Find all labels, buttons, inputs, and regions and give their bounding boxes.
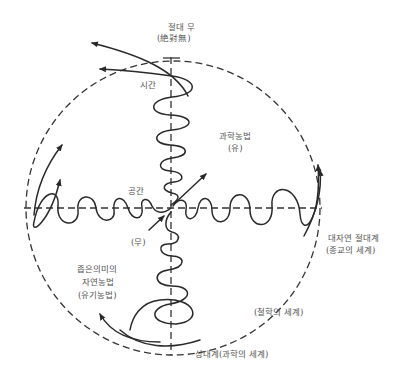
label-nothing: (무) bbox=[131, 237, 146, 248]
spiral-right bbox=[173, 165, 319, 225]
spiral-diagram bbox=[0, 0, 395, 384]
label-space: 공간 bbox=[128, 186, 144, 197]
label-nature-absolute-sub: (종교의 세계) bbox=[326, 245, 375, 256]
label-philosophy: (철학의 세계) bbox=[254, 307, 303, 318]
arrow-to-nothing bbox=[149, 216, 164, 230]
label-science-farming-sub: (유) bbox=[228, 143, 243, 154]
label-narrow-natural-3: (유기농법) bbox=[78, 290, 117, 301]
spiral-left bbox=[33, 180, 171, 227]
label-time: 시간 bbox=[140, 80, 156, 91]
label-nature-absolute: 대자연 절대계 bbox=[328, 233, 379, 244]
label-relative-world: 상대계(과학의 세계) bbox=[195, 349, 268, 360]
spiral-down bbox=[120, 212, 200, 346]
label-narrow-natural-1: 좁은의미의 bbox=[77, 264, 117, 275]
label-absolute-nothing-hanja: (絶對無) bbox=[157, 33, 191, 44]
label-absolute-nothing: 절대 무 bbox=[168, 22, 195, 33]
label-narrow-natural-2: 자연농법 bbox=[82, 277, 114, 288]
label-science-farming: 과학농법 bbox=[219, 131, 251, 142]
